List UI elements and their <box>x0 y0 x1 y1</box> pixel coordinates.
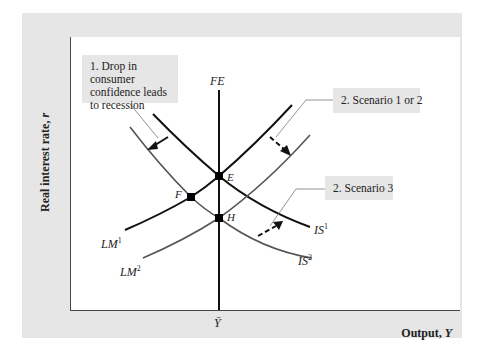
lm2-curve <box>143 135 310 258</box>
lm1-label: LM1 <box>101 236 122 252</box>
point-h-label: H <box>227 211 235 223</box>
point-e-label: E <box>227 171 234 183</box>
point-h <box>215 214 223 222</box>
point-f-label: F <box>175 188 182 200</box>
lm2-label: LM2 <box>120 264 141 280</box>
point-f <box>187 193 195 201</box>
is1-label: IS1 <box>314 222 328 238</box>
point-e <box>215 172 223 180</box>
arrowhead-icon <box>280 145 291 156</box>
x-axis-label: Output, Y <box>401 326 452 341</box>
arrowhead-icon <box>273 221 283 230</box>
islm-fe-diagram <box>0 0 484 364</box>
annotation-scenario-3: 2. Scenario 3 <box>325 176 393 200</box>
leader-line-note3 <box>270 189 325 226</box>
x-tick-ybar: Ȳ <box>214 316 221 331</box>
is2-label: IS2 <box>298 253 312 269</box>
fe-label: FE <box>210 74 225 89</box>
annotation-scenario-1-or-2: 2. Scenario 1 or 2 <box>333 88 420 113</box>
annotation-consumer-confidence: 1. Drop in consumer confidence leads to … <box>82 55 178 103</box>
leader-line-note2 <box>276 100 333 137</box>
y-axis-label: Real interest rate, r <box>38 113 53 212</box>
arrowhead-icon <box>147 141 158 150</box>
is-return-arrow <box>258 226 276 236</box>
lm-shift-arrow-1 <box>270 137 285 150</box>
